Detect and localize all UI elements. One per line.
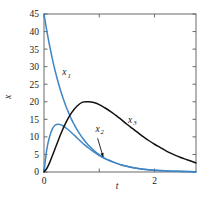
y-tick-label: 30 <box>30 62 40 72</box>
y-tick-label: 15 <box>30 115 40 125</box>
y-tick-label: 35 <box>30 45 40 55</box>
curve-label-subscript: 1 <box>67 72 70 79</box>
x-tick-label: 0 <box>42 176 47 186</box>
y-tick-label: 20 <box>30 97 40 107</box>
curve-label-subscript: 2 <box>101 128 105 135</box>
curve-label-x3: x <box>127 115 133 125</box>
curve-label-x2: x <box>94 124 100 134</box>
y-tick-label: 45 <box>30 9 40 19</box>
y-tick-label: 25 <box>30 80 40 90</box>
y-tick-label: 10 <box>30 132 40 142</box>
x-axis-title: t <box>116 181 119 191</box>
y-tick-label: 40 <box>30 27 40 37</box>
y-tick-label: 0 <box>34 167 39 177</box>
chart-figure: 02 051015202530354045 x1x2x3 t x <box>0 0 208 201</box>
line-chart: 02 051015202530354045 x1x2x3 t x <box>0 0 208 201</box>
y-tick-label: 5 <box>34 150 39 160</box>
y-axis-title: x <box>3 94 13 100</box>
x-tick-label: 2 <box>152 176 157 186</box>
curve-label-subscript: 3 <box>132 119 137 126</box>
curve-label-x1: x <box>61 67 67 77</box>
